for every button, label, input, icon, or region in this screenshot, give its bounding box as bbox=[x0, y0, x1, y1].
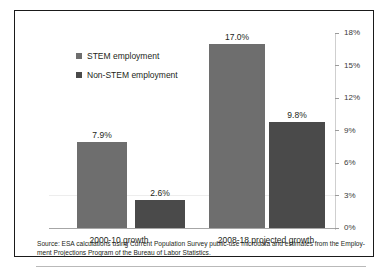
y-tick-mark bbox=[335, 228, 339, 229]
y-tick-label: 6% bbox=[344, 157, 356, 168]
legend-swatch-nonstem-icon bbox=[76, 72, 82, 78]
legend-label-stem: STEM employment bbox=[87, 51, 159, 61]
y-tick-label: 18% bbox=[344, 27, 360, 38]
y-tick-label: 15% bbox=[344, 60, 360, 71]
bar-stem-1[interactable] bbox=[209, 44, 265, 228]
bar-group-1: 17.0% 9.8% bbox=[209, 33, 329, 228]
y-axis: 0%3%6%9%12%15%18% bbox=[335, 33, 387, 230]
x-axis-baseline bbox=[49, 228, 335, 229]
y-tick-label: 9% bbox=[344, 125, 356, 136]
bar-label-stem-0: 7.9% bbox=[92, 130, 111, 140]
bar-label-nonstem-1: 9.8% bbox=[287, 110, 306, 120]
chart-page-frame: 7.9% 2.6% 17.0% 9.8% 0%3%6%9%12%15%18% 2… bbox=[14, 10, 374, 257]
legend-label-nonstem: Non-STEM employment bbox=[87, 70, 178, 80]
source-note: Source: ESA calculations using Current P… bbox=[37, 239, 367, 258]
legend-swatch-stem-icon bbox=[76, 53, 82, 59]
y-tick-mark bbox=[335, 65, 339, 66]
bar-stem-0[interactable] bbox=[77, 142, 127, 228]
bar-nonstem-0[interactable] bbox=[135, 200, 185, 228]
y-tick-mark bbox=[335, 163, 339, 164]
y-tick-mark bbox=[335, 195, 339, 196]
chart-area: 7.9% 2.6% 17.0% 9.8% 0%3%6%9%12%15%18% 2… bbox=[31, 23, 387, 238]
y-tick-label: 0% bbox=[344, 222, 356, 233]
y-tick-mark bbox=[335, 98, 339, 99]
page-bottom-rule bbox=[36, 266, 366, 267]
bar-label-nonstem-0: 2.6% bbox=[150, 188, 169, 198]
legend-item-nonstem[interactable]: Non-STEM employment bbox=[76, 68, 178, 82]
bar-nonstem-1[interactable] bbox=[269, 122, 325, 228]
y-tick-mark bbox=[335, 130, 339, 131]
y-tick-label: 12% bbox=[344, 92, 360, 103]
y-tick-label: 3% bbox=[344, 190, 356, 201]
bar-label-stem-1: 17.0% bbox=[225, 32, 249, 42]
chart-legend: STEM employment Non-STEM employment bbox=[76, 49, 178, 87]
y-tick-mark bbox=[335, 33, 339, 34]
legend-item-stem[interactable]: STEM employment bbox=[76, 49, 178, 63]
